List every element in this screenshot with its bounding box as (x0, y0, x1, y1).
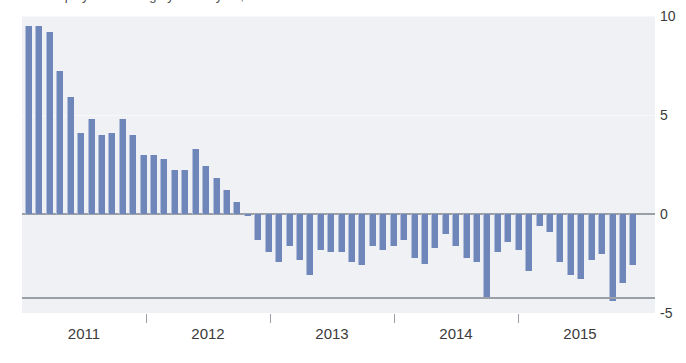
bar (88, 119, 95, 214)
bar (108, 133, 115, 214)
bar (192, 149, 199, 214)
bar (379, 214, 386, 250)
bar (431, 214, 438, 248)
bar (358, 214, 365, 265)
bar (254, 214, 261, 240)
bar (171, 170, 178, 214)
bar-chart: Unemployment change year-on-year, in tho… (0, 0, 686, 363)
bar (46, 32, 53, 214)
gridline-5 (22, 115, 655, 116)
bar (525, 214, 532, 271)
bar (400, 214, 407, 240)
bar (67, 97, 74, 214)
x-axis-line (22, 297, 655, 299)
bar (160, 159, 167, 214)
x-axis-tick-mark (394, 314, 395, 323)
plot-area (22, 16, 655, 313)
bar (348, 214, 355, 262)
bar (588, 214, 595, 260)
bar (202, 166, 209, 214)
x-axis-label-2014: 2014 (416, 325, 496, 342)
chart-title-cropped: Unemployment change year-on-year, in tho… (0, 0, 686, 11)
bar (411, 214, 418, 258)
x-axis-label-2011: 2011 (44, 325, 124, 342)
bar (390, 214, 397, 246)
bar (306, 214, 313, 275)
bar (442, 214, 449, 234)
bar (536, 214, 543, 226)
bar (619, 214, 626, 283)
bar (77, 133, 84, 214)
bar (150, 155, 157, 214)
bar (35, 26, 42, 214)
bar (296, 214, 303, 260)
y-axis-tick-label: 0 (660, 207, 668, 221)
gridline-10 (22, 16, 655, 17)
bar (223, 190, 230, 214)
bar (265, 214, 272, 252)
bar (629, 214, 636, 265)
bar (577, 214, 584, 279)
bar (494, 214, 501, 252)
bar (56, 71, 63, 214)
bar (286, 214, 293, 246)
x-axis-tick-mark (146, 314, 147, 323)
bar (598, 214, 605, 254)
bar (463, 214, 470, 258)
bar (473, 214, 480, 262)
bar (129, 135, 136, 214)
bar (275, 214, 282, 262)
bar (25, 26, 32, 214)
bar (609, 214, 616, 301)
x-axis-tick-mark (270, 314, 271, 323)
bar (338, 214, 345, 252)
bar (567, 214, 574, 275)
bar (233, 202, 240, 214)
bar (327, 214, 334, 252)
x-axis-label-2015: 2015 (540, 325, 620, 342)
bar (119, 119, 126, 214)
bar (98, 135, 105, 214)
bar (504, 214, 511, 242)
bar (546, 214, 553, 232)
bar (181, 170, 188, 214)
y-axis-tick-label: 10 (660, 9, 676, 23)
bar (213, 178, 220, 214)
y-axis-tick-label: 5 (660, 108, 668, 122)
x-axis-label-2013: 2013 (292, 325, 372, 342)
bar (369, 214, 376, 246)
bar (515, 214, 522, 250)
bar (452, 214, 459, 246)
plot-inner (22, 16, 655, 313)
bar (483, 214, 490, 297)
bar (421, 214, 428, 264)
bar (140, 155, 147, 214)
chart-title-text: Unemployment change year-on-year, in tho… (30, 0, 321, 2)
bar (317, 214, 324, 250)
x-axis-tick-mark (518, 314, 519, 323)
bar (244, 214, 251, 216)
bar (556, 214, 563, 262)
x-axis-label-2012: 2012 (168, 325, 248, 342)
y-axis-tick-label: -5 (660, 306, 672, 320)
